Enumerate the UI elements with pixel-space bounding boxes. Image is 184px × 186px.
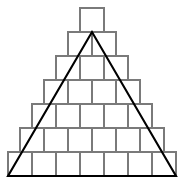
pyramid-square (92, 128, 116, 152)
pyramid-square (104, 152, 128, 176)
pyramid-triangle-figure (0, 0, 184, 186)
pyramid-square (104, 104, 128, 128)
pyramid-row (44, 80, 140, 104)
pyramid-row (80, 8, 104, 32)
figure-container (0, 0, 184, 186)
pyramid-square (128, 152, 152, 176)
pyramid-row (20, 128, 164, 152)
pyramid-square (92, 80, 116, 104)
pyramid-square (68, 80, 92, 104)
pyramid-row (8, 152, 176, 176)
pyramid-square (80, 152, 104, 176)
pyramid-square (80, 56, 104, 80)
pyramid-square (68, 128, 92, 152)
pyramid-square (56, 152, 80, 176)
pyramid-square (116, 128, 140, 152)
pyramid-square (80, 104, 104, 128)
pyramid-row (32, 104, 152, 128)
pyramid-row (68, 32, 116, 56)
pyramid-square (32, 152, 56, 176)
pyramid-square (44, 128, 68, 152)
pyramid-square (56, 104, 80, 128)
pyramid-square (80, 8, 104, 32)
